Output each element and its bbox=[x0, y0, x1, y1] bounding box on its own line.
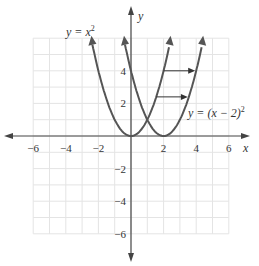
y-tick-label: 2 bbox=[121, 97, 127, 109]
y-axis-arrow-down-icon bbox=[128, 253, 134, 262]
curve-arrow-icon bbox=[166, 36, 174, 46]
curve-arrow-icon bbox=[121, 36, 129, 46]
x-tick-label: −2 bbox=[93, 142, 105, 154]
y-tick-label: 4 bbox=[121, 65, 127, 77]
x-tick-label: 6 bbox=[226, 142, 232, 154]
arrowhead-right-icon bbox=[188, 68, 195, 74]
x-tick-label: 4 bbox=[193, 142, 199, 154]
x-tick-label: 2 bbox=[161, 142, 167, 154]
x-tick-label: −6 bbox=[27, 142, 39, 154]
arrowhead-right-icon bbox=[181, 94, 188, 100]
graph: −6−4−224642−2−4−6 y = x2 y = (x − 2)2 y … bbox=[0, 0, 259, 266]
curve2-label: y = (x − 2)2 bbox=[187, 105, 245, 120]
x-axis-label: x bbox=[242, 141, 249, 155]
curve-arrow-icon bbox=[198, 36, 206, 46]
curve1-label: y = x2 bbox=[65, 24, 95, 39]
y-tick-label: −2 bbox=[114, 163, 126, 175]
y-tick-label: −6 bbox=[114, 228, 126, 240]
x-axis-arrow-left-icon bbox=[4, 133, 13, 139]
y-tick-label: −4 bbox=[114, 195, 126, 207]
x-tick-label: −4 bbox=[60, 142, 72, 154]
y-axis-label: y bbox=[137, 9, 144, 23]
x-axis-arrow-right-icon bbox=[241, 133, 250, 139]
y-axis-arrow-up-icon bbox=[128, 6, 134, 15]
